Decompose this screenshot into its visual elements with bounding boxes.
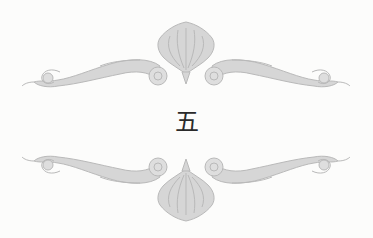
bottom-flourish-ornament-icon <box>0 145 373 235</box>
chapter-number: 五 <box>0 108 373 136</box>
top-flourish-ornament-icon <box>0 8 373 98</box>
chapter-divider-page: 五 <box>0 0 373 238</box>
